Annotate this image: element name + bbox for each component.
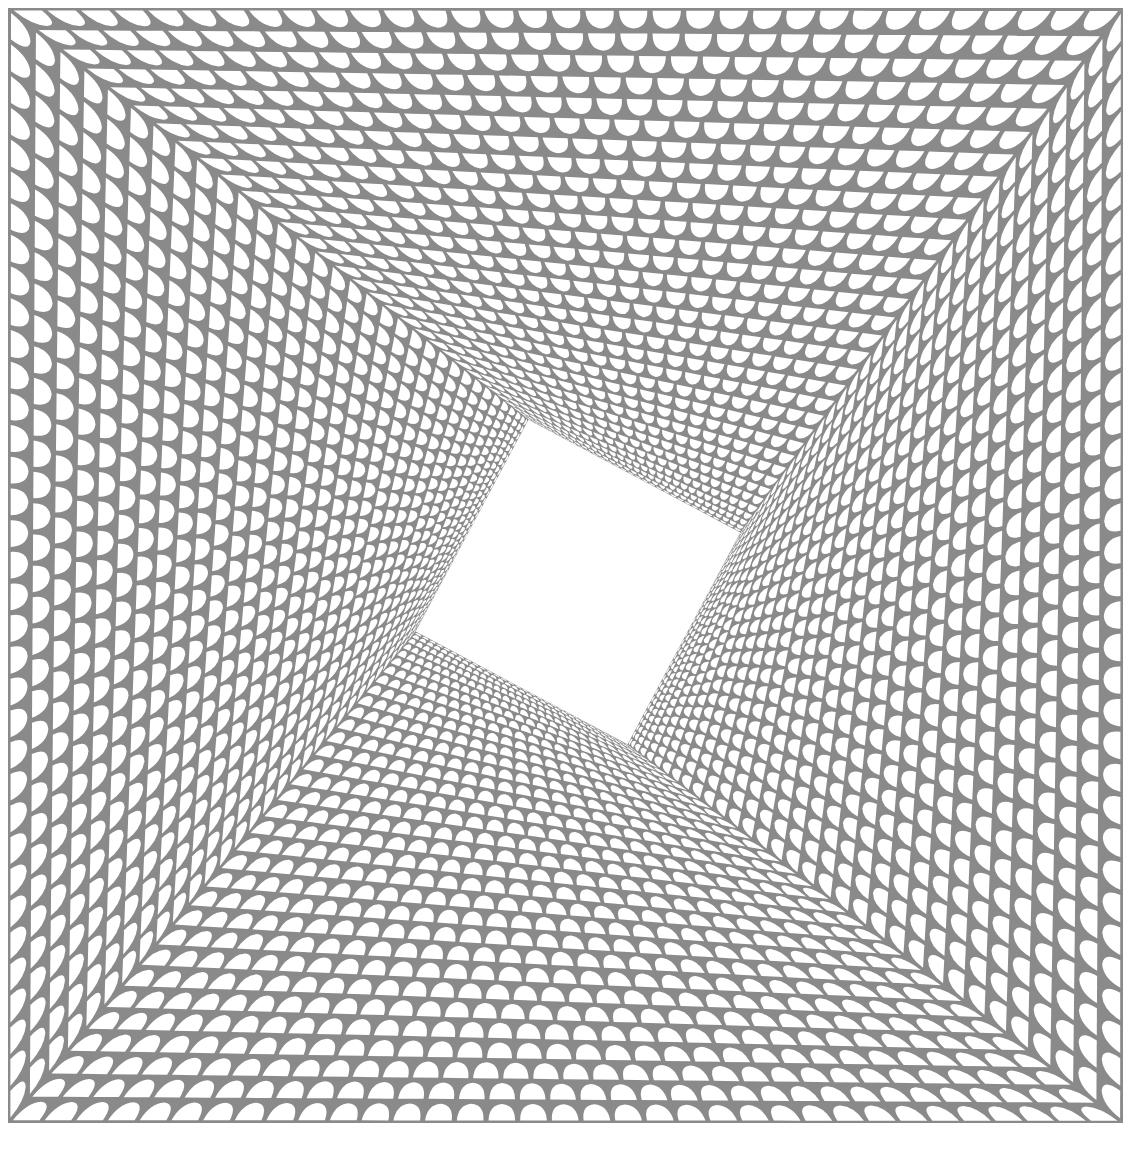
op-art-artwork [0, 0, 1130, 1169]
concentric-petal-pattern [0, 0, 1130, 1169]
